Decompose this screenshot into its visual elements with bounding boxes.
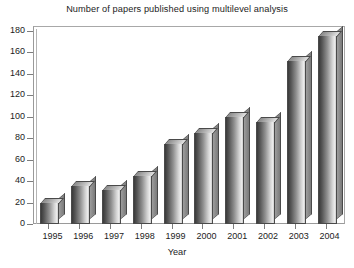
bar-side-face bbox=[213, 123, 219, 219]
y-axis-tick bbox=[27, 95, 33, 96]
y-axis-label: 140 bbox=[0, 68, 25, 78]
y-axis-tick bbox=[27, 203, 33, 204]
y-axis-label: 60 bbox=[0, 154, 25, 164]
bar-side-face bbox=[183, 134, 189, 219]
bar-2002 bbox=[256, 122, 275, 224]
bar-front-face bbox=[225, 117, 244, 224]
x-axis-title: Year bbox=[0, 247, 354, 257]
x-axis-tick bbox=[79, 224, 80, 229]
x-axis-tick bbox=[264, 224, 265, 229]
x-axis-tick bbox=[295, 224, 296, 229]
y-axis-label: 40 bbox=[0, 175, 25, 185]
bar-front-face bbox=[287, 61, 306, 224]
bar-front-face bbox=[102, 190, 121, 224]
x-axis-tick bbox=[48, 224, 49, 229]
bar-1998 bbox=[133, 176, 152, 224]
bar-1997 bbox=[102, 190, 121, 224]
y-axis-tick bbox=[27, 74, 33, 75]
bar-2001 bbox=[225, 117, 244, 224]
y-axis-tick bbox=[27, 138, 33, 139]
bar-front-face bbox=[318, 36, 337, 224]
bar-1996 bbox=[71, 186, 90, 224]
bar-chart: Number of papers published using multile… bbox=[0, 0, 354, 268]
bar-2004 bbox=[318, 36, 337, 224]
x-axis-tick bbox=[326, 224, 327, 229]
bar-side-face bbox=[275, 112, 281, 219]
x-axis-label: 2004 bbox=[310, 231, 350, 241]
bar-side-face bbox=[306, 51, 312, 219]
x-axis-tick bbox=[202, 224, 203, 229]
bar-2000 bbox=[194, 133, 213, 224]
x-axis-tick bbox=[233, 224, 234, 229]
bar-1995 bbox=[40, 203, 59, 224]
bar-front-face bbox=[133, 176, 152, 224]
bar-1999 bbox=[164, 144, 183, 224]
y-axis-label: 160 bbox=[0, 46, 25, 56]
y-axis-label: 20 bbox=[0, 197, 25, 207]
y-axis-label: 180 bbox=[0, 25, 25, 35]
y-axis-label: 120 bbox=[0, 89, 25, 99]
chart-title: Number of papers published using multile… bbox=[0, 4, 354, 14]
bar-2003 bbox=[287, 61, 306, 224]
y-axis-tick bbox=[27, 160, 33, 161]
bar-side-face bbox=[337, 26, 343, 219]
y-axis-tick bbox=[27, 181, 33, 182]
x-axis-tick bbox=[172, 224, 173, 229]
bar-side-face bbox=[244, 107, 250, 219]
bar-front-face bbox=[164, 144, 183, 224]
y-axis-label: 80 bbox=[0, 132, 25, 142]
x-axis-tick bbox=[141, 224, 142, 229]
y-axis-tick bbox=[27, 52, 33, 53]
y-axis-label: 100 bbox=[0, 111, 25, 121]
y-axis-label: 0 bbox=[0, 218, 25, 228]
bar-front-face bbox=[256, 122, 275, 224]
y-axis-tick bbox=[27, 224, 33, 225]
y-axis-inner-line bbox=[36, 29, 37, 224]
bar-front-face bbox=[194, 133, 213, 224]
y-axis-tick bbox=[27, 31, 33, 32]
bar-front-face bbox=[40, 203, 59, 224]
y-axis-tick bbox=[27, 117, 33, 118]
bar-front-face bbox=[71, 186, 90, 224]
x-axis-tick bbox=[110, 224, 111, 229]
